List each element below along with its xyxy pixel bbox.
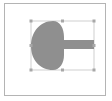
- shape-canvas: [0, 0, 112, 101]
- handle-top-left[interactable]: [30, 20, 33, 23]
- handle-top-right[interactable]: [93, 20, 96, 23]
- handle-middle-left[interactable]: [30, 44, 33, 47]
- mushroom-shape[interactable]: [31, 21, 94, 70]
- shape-body[interactable]: [31, 21, 94, 70]
- handle-bottom-left[interactable]: [30, 69, 33, 72]
- handle-middle-right[interactable]: [93, 44, 96, 47]
- handle-top-center[interactable]: [61, 20, 64, 23]
- handle-bottom-right[interactable]: [93, 69, 96, 72]
- handle-bottom-center[interactable]: [61, 69, 64, 72]
